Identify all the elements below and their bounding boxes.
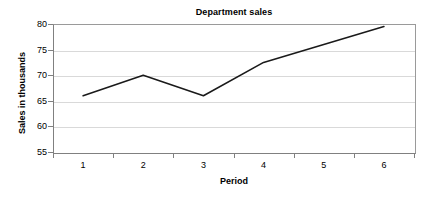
- gridline: [54, 51, 415, 52]
- x-tick-mark: [173, 153, 174, 158]
- x-axis-title: Period: [53, 176, 415, 186]
- y-tick-mark: [48, 75, 53, 76]
- y-tick-label: 55: [23, 148, 47, 157]
- y-tick-label: 70: [23, 71, 47, 80]
- x-tick-mark: [113, 153, 114, 158]
- gridline: [54, 76, 415, 77]
- x-tick-mark: [53, 153, 54, 158]
- x-tick-mark: [234, 153, 235, 158]
- x-tick-mark: [414, 153, 415, 158]
- y-tick-mark: [48, 126, 53, 127]
- line-chart: Department sales Sales in thousands Peri…: [0, 0, 431, 199]
- x-tick-label: 5: [304, 160, 344, 170]
- x-tick-label: 4: [244, 160, 284, 170]
- gridline: [54, 127, 415, 128]
- x-tick-mark: [354, 153, 355, 158]
- y-tick-mark: [48, 50, 53, 51]
- y-tick-label: 65: [23, 97, 47, 106]
- x-tick-label: 1: [63, 160, 103, 170]
- plot-area: [53, 24, 416, 154]
- y-tick-label: 80: [23, 20, 47, 29]
- x-tick-label: 2: [123, 160, 163, 170]
- y-tick-label: 75: [23, 46, 47, 55]
- y-tick-mark: [48, 101, 53, 102]
- x-tick-mark: [294, 153, 295, 158]
- y-axis-title: Sales in thousands: [17, 23, 27, 163]
- gridline: [54, 102, 415, 103]
- y-tick-mark: [48, 24, 53, 25]
- x-tick-label: 3: [183, 160, 223, 170]
- y-tick-label: 60: [23, 122, 47, 131]
- chart-title: Department sales: [53, 7, 415, 17]
- x-tick-label: 6: [364, 160, 404, 170]
